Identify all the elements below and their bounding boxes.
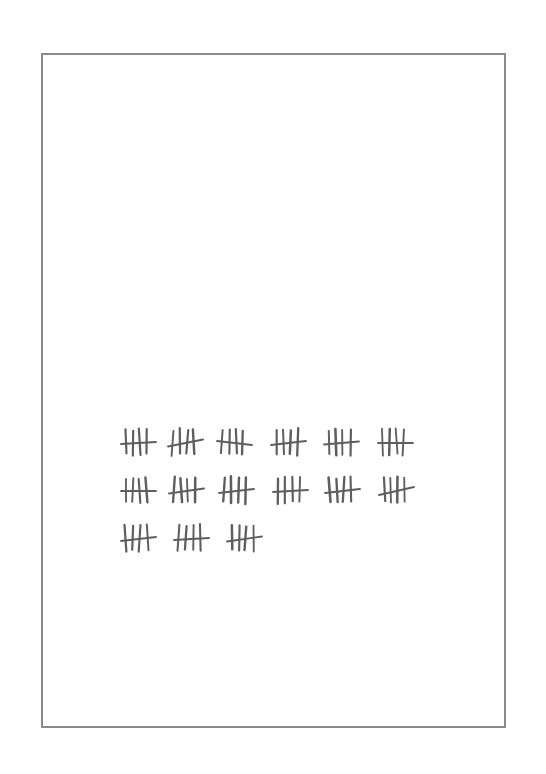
- paper-sheet: [41, 53, 506, 728]
